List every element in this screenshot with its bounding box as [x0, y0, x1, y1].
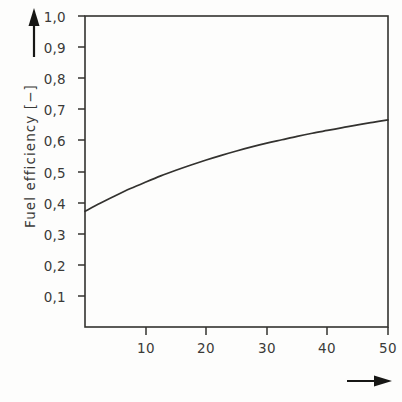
- x-tick-label: 20: [186, 340, 226, 356]
- data-series-line: [85, 120, 388, 211]
- y-tick-label: 0,2: [22, 258, 66, 274]
- x-tick-label: 50: [368, 340, 402, 356]
- y-axis-ticks: [78, 16, 85, 296]
- x-tick-label: 30: [247, 340, 287, 356]
- x-axis-ticks: [146, 327, 388, 335]
- y-tick-label: 1,0: [22, 9, 66, 25]
- x-tick-label: 40: [307, 340, 347, 356]
- y-tick-label: 0,9: [22, 40, 66, 56]
- x-tick-label: 10: [126, 340, 166, 356]
- y-tick-label: 0,1: [22, 289, 66, 305]
- y-axis-label: Fuel efficiency [−]: [22, 66, 38, 246]
- plot-frame: [85, 16, 388, 327]
- x-axis-arrow-icon: [347, 376, 392, 387]
- chart-figure: 1,0 0,9 0,8 0,7 0,6 0,5 0,4 0,3 0,2 0,1 …: [0, 0, 402, 402]
